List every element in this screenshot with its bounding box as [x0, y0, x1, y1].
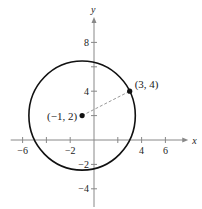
point — [80, 113, 85, 118]
y-tick-label: 8 — [84, 37, 89, 48]
y-tick-label: −2 — [78, 159, 89, 170]
x-tick-label: −6 — [17, 145, 28, 156]
point — [127, 89, 132, 94]
y-tick-label: 4 — [84, 86, 89, 97]
y-axis-arrow — [92, 17, 97, 23]
point-label: (−1, 2) — [47, 110, 77, 123]
y-tick-label: −4 — [78, 183, 89, 194]
point-label: (3, 4) — [135, 78, 159, 91]
chart: xy−6−246−4−248 (−1, 2)(3, 4) — [0, 0, 202, 209]
x-tick-label: 4 — [139, 145, 144, 156]
x-tick-label: −2 — [65, 145, 76, 156]
x-axis-label: x — [191, 135, 197, 146]
radius-segment — [82, 91, 130, 115]
y-axis-label: y — [90, 4, 96, 15]
x-axis-arrow — [182, 138, 188, 143]
x-tick-label: 6 — [163, 145, 168, 156]
